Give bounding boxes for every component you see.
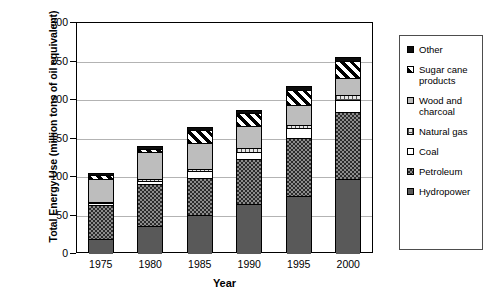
bar-segment-coal	[336, 100, 360, 112]
bar-segment-sugarcane	[287, 90, 311, 105]
bar-segment-wood	[287, 105, 311, 124]
y-tick-label: 100	[22, 171, 68, 181]
bar-1975	[88, 173, 114, 253]
bar-segment-hydropower	[188, 215, 212, 254]
legend-item-label: Wood and charcoal	[419, 95, 462, 117]
legend-item-label: Natural gas	[419, 126, 468, 137]
bar-2000	[335, 57, 361, 253]
bar-segment-wood	[237, 126, 261, 148]
bars-layer	[76, 22, 373, 253]
stacked-bar-chart: Total Energy Use (million tons of oil eq…	[0, 0, 500, 302]
y-tick-label: 0	[22, 248, 68, 258]
legend-item[interactable]: Hydropower	[407, 186, 482, 197]
hydropower-swatch	[407, 188, 414, 195]
bar-segment-coal	[287, 128, 311, 138]
bar-segment-hydropower	[237, 204, 261, 254]
bar-1980	[137, 146, 163, 253]
bar-segment-sugarcane	[188, 130, 212, 143]
petroleum-swatch	[407, 168, 414, 175]
legend-item-label: Other	[419, 44, 443, 55]
naturalgas-swatch	[407, 128, 414, 135]
bar-segment-petroleum	[287, 138, 311, 196]
legend-item-label: Hydropower	[419, 186, 470, 197]
y-tick-mark	[70, 253, 76, 254]
bar-1990	[236, 110, 262, 253]
legend-item-label: Petroleum	[419, 166, 462, 177]
bar-segment-hydropower	[287, 196, 311, 254]
bar-segment-petroleum	[138, 184, 162, 226]
legend-item[interactable]: Other	[407, 44, 482, 55]
bar-segment-wood	[188, 143, 212, 168]
bar-segment-wood	[138, 152, 162, 179]
legend-item[interactable]: Natural gas	[407, 126, 482, 137]
bar-segment-sugarcane	[237, 113, 261, 126]
bar-1985	[187, 127, 213, 253]
coal-swatch	[407, 148, 414, 155]
x-tick-label-2000: 2000	[318, 258, 378, 270]
legend-item-label: Sugar cane products	[419, 64, 468, 86]
bar-segment-petroleum	[89, 205, 113, 238]
bar-segment-petroleum	[188, 178, 212, 215]
bar-segment-wood	[89, 179, 113, 202]
sugarcane-swatch	[407, 66, 414, 73]
y-tick-label: 200	[22, 94, 68, 104]
legend-item[interactable]: Wood and charcoal	[407, 95, 482, 117]
legend-item[interactable]: Petroleum	[407, 166, 482, 177]
chart-legend: OtherSugar cane productsWood and charcoa…	[399, 35, 483, 250]
y-tick-label: 150	[22, 133, 68, 143]
bar-segment-coal	[188, 171, 212, 178]
bar-segment-petroleum	[336, 112, 360, 180]
y-tick-label: 50	[22, 210, 68, 220]
x-axis-title: Year	[76, 277, 373, 289]
bar-segment-hydropower	[138, 226, 162, 254]
bar-segment-petroleum	[237, 159, 261, 204]
legend-item[interactable]: Sugar cane products	[407, 64, 482, 86]
bar-segment-sugarcane	[336, 61, 360, 78]
wood-swatch	[407, 97, 414, 104]
legend-item[interactable]: Coal	[407, 146, 482, 157]
bar-segment-hydropower	[89, 239, 113, 254]
bar-1995	[286, 86, 312, 253]
bar-segment-coal	[237, 152, 261, 160]
y-tick-label: 300	[22, 17, 68, 27]
legend-item-label: Coal	[419, 146, 439, 157]
y-tick-label: 250	[22, 56, 68, 66]
other-swatch	[407, 46, 414, 53]
bar-segment-hydropower	[336, 179, 360, 254]
bar-segment-wood	[336, 78, 360, 95]
